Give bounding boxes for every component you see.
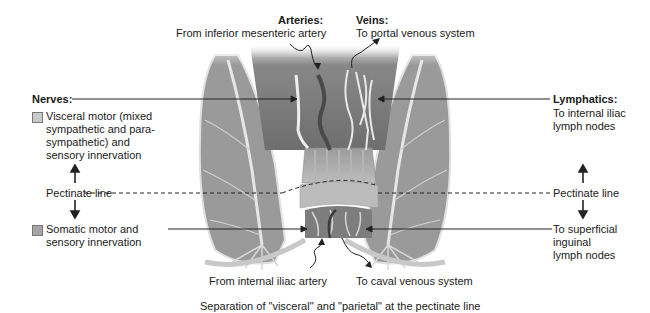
nerves-heading: Nerves: bbox=[32, 93, 72, 106]
arteries-upper-text: From inferior mesenteric artery bbox=[176, 27, 326, 40]
figure-caption: Separation of "visceral" and "parietal" … bbox=[200, 300, 480, 313]
lower-plexus bbox=[305, 206, 372, 238]
pectinate-left-label: Pectinate line bbox=[46, 187, 112, 200]
pectinate-right-label: Pectinate line bbox=[553, 187, 619, 200]
anal-pecten bbox=[300, 182, 378, 209]
somatic-swatch bbox=[32, 225, 43, 236]
veins-heading: Veins: bbox=[356, 14, 388, 27]
veins-lower-text: To caval venous system bbox=[356, 275, 473, 288]
veins-upper-text: To portal venous system bbox=[356, 27, 475, 40]
visceral-swatch bbox=[32, 112, 43, 123]
nerves-lower-text: Somatic motor and sensory innervation bbox=[46, 223, 141, 249]
arteries-heading: Arteries: bbox=[278, 14, 323, 27]
arteries-lower-text: From internal iliac artery bbox=[209, 275, 327, 288]
lymphatics-heading: Lymphatics: bbox=[553, 93, 617, 106]
lymphatics-lower-text: To superficial inguinal lymph nodes bbox=[553, 223, 617, 262]
nerves-upper-text: Visceral motor (mixed sympathetic and pa… bbox=[46, 110, 155, 162]
lymphatics-upper-text: To internal iliac lymph nodes bbox=[553, 107, 626, 133]
